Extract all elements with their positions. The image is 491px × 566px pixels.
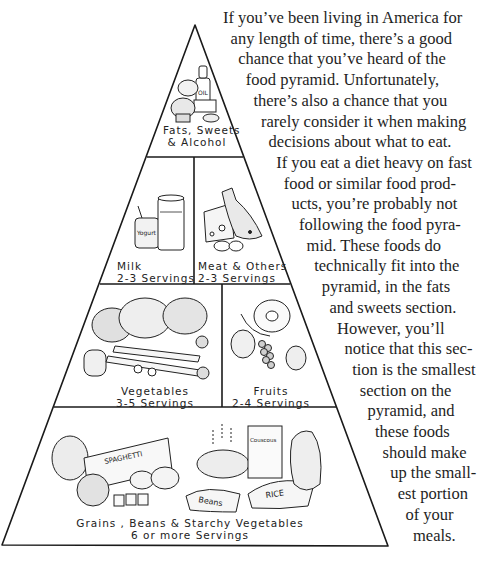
article-line: pyramid, in the fats [322, 277, 450, 297]
lettuce-icon [163, 298, 207, 334]
dish-icon [178, 80, 198, 96]
label-grains: Grains , Beans & Starchy Vegetables 6 or… [40, 517, 340, 541]
candy-icon [203, 114, 219, 122]
label-fruits: Fruits 2-4 Servings [226, 385, 316, 409]
label-meat: Meat & Others 2-3 Servings [198, 260, 287, 284]
article-line: of your [405, 505, 453, 525]
label-fruits-name: Fruits [226, 385, 316, 397]
label-fats-name2: & Alcohol [163, 136, 231, 148]
label-grains-name: Grains , Beans & Starchy Vegetables [40, 517, 340, 529]
milk-glass-icon [158, 198, 184, 250]
article-line: following the food pyra- [299, 215, 461, 235]
article-line: rarely consider it when making [261, 112, 466, 132]
pear-icon [231, 330, 255, 358]
bread-icon [52, 436, 88, 480]
article-line: meals. [413, 526, 456, 546]
label-vegetables-servings: 3-5 Servings [100, 397, 210, 409]
article-line: pyramid, and [367, 401, 454, 421]
fruits-illustration [231, 300, 306, 370]
label-fats-name: Fats, Sweets [163, 124, 231, 136]
article-line: these foods [375, 422, 450, 442]
svg-text:Couscous: Couscous [250, 437, 276, 443]
label-meat-name: Meat & Others [198, 260, 287, 272]
mushroom-icon [134, 365, 142, 373]
meat-illustration [204, 188, 262, 251]
article-line: food pyramid. Unfortunately, [246, 70, 439, 90]
vegetables-illustration [84, 298, 209, 379]
pepper-icon [84, 350, 106, 376]
beans-bag-icon: Beans [186, 489, 240, 512]
label-vegetables-name: Vegetables [100, 385, 210, 397]
grapes-icon [259, 341, 275, 369]
article-line: should make [383, 443, 467, 463]
label-milk-name: Milk [117, 260, 195, 272]
label-milk: Milk 2-3 Servings [117, 260, 195, 284]
article-line: any length of time, there’s a good [231, 29, 452, 49]
squash-icon [290, 431, 321, 490]
article-line: and sweets section. [329, 298, 456, 318]
article-line: However, you’ll [337, 319, 444, 339]
label-grains-servings: 6 or more Servings [40, 529, 340, 541]
grains-illustration: SPAGHETTI Beans Couscous RICE [52, 424, 321, 512]
couscous-box-icon: Couscous [248, 426, 282, 478]
milk-illustration: Yogurt [135, 195, 184, 250]
article-line: section on the [360, 381, 452, 401]
article-line: If you’ve been living in America for [223, 8, 462, 28]
label-vegetables: Vegetables 3-5 Servings [100, 385, 210, 409]
fats-sweets-illustration: OIL [171, 66, 219, 122]
label-fats-sweets: Fats, Sweets & Alcohol [163, 124, 231, 148]
article-line: technically fit into the [314, 256, 459, 276]
article-line: ucts, you’re probably not [291, 194, 457, 214]
bowl-icon [197, 450, 249, 478]
crackers-icon [114, 494, 148, 506]
article-line: up the small- [390, 463, 476, 483]
article-line: tion is the smallest [352, 360, 475, 380]
potato-icon [130, 471, 154, 489]
article-line: there’s also a chance that you [253, 91, 447, 111]
label-milk-servings: 2-3 Servings [117, 272, 195, 284]
article-line: est portion [398, 484, 468, 504]
article-line: notice that this sec- [345, 339, 473, 359]
article-line: If you eat a diet heavy on fast [276, 153, 472, 173]
svg-text:OIL: OIL [198, 89, 208, 96]
svg-text:Yogurt: Yogurt [136, 229, 157, 237]
butter-icon [194, 100, 216, 112]
article-line: chance that you’ve heard of the [238, 49, 446, 69]
tomato-icon [77, 474, 109, 506]
article-line: food or similar food prod- [284, 174, 456, 194]
egg-icon [214, 241, 230, 251]
label-meat-servings: 2-3 Servings [198, 272, 287, 284]
label-fruits-servings: 2-4 Servings [226, 397, 316, 409]
article-line: decisions about what to eat. [269, 132, 452, 152]
article-line: mid. These foods do [307, 236, 441, 256]
